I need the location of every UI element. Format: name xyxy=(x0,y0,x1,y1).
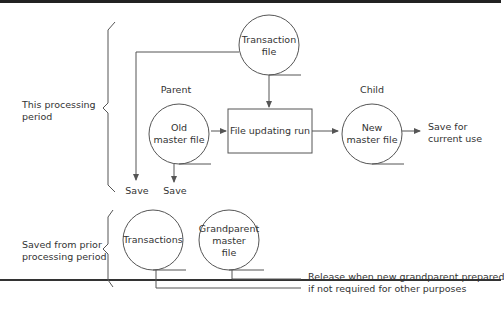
update-run-label: File updating run xyxy=(230,125,310,137)
save-transaction-label: Save xyxy=(125,185,148,197)
bracket-label-current: This processing period xyxy=(22,99,96,123)
parent-label: Parent xyxy=(161,84,191,96)
new-master-label: New master file xyxy=(347,122,398,146)
save-current-label: Save for current use xyxy=(428,121,482,145)
release-label: Release when new grandparent prepared if… xyxy=(308,271,504,295)
old-master-label: Old master file xyxy=(154,122,205,146)
transaction-file-label: Transaction file xyxy=(242,34,296,58)
bracket-label-prior: Saved from prior processing period xyxy=(22,239,106,263)
brace-current xyxy=(103,22,115,192)
grandparent-label: Grandparent master file xyxy=(199,223,259,259)
child-label: Child xyxy=(360,84,384,96)
save-old-master-label: Save xyxy=(163,185,186,197)
transactions-label: Transactions xyxy=(123,234,182,246)
